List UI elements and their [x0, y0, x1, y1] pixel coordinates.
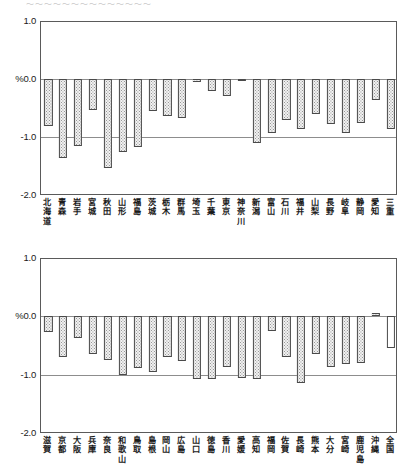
xtick-label-茨城: 茨城 [144, 198, 159, 217]
bar-愛知[interactable] [372, 79, 380, 100]
xtick-label-長野: 長野 [323, 198, 338, 217]
xtick-label-岡山: 岡山 [159, 436, 174, 455]
xtick-label-高知: 高知 [248, 436, 263, 455]
bar-宮崎[interactable] [342, 316, 350, 364]
xtick-label-佐賀: 佐賀 [278, 436, 293, 455]
bar-埼玉[interactable] [193, 79, 201, 82]
bar-三重[interactable] [386, 79, 394, 129]
bar-slot [353, 259, 368, 432]
bar-静岡[interactable] [357, 79, 365, 123]
bar-slot [339, 22, 354, 194]
xtick-label-岩手: 岩手 [70, 198, 85, 217]
bar-slot [86, 22, 101, 194]
bar-長崎[interactable] [297, 316, 305, 383]
bar-山口[interactable] [193, 316, 201, 379]
bar-愛媛[interactable] [238, 316, 246, 378]
bar-千葉[interactable] [208, 79, 216, 91]
bar-岡山[interactable] [163, 316, 171, 357]
bar-高知[interactable] [253, 316, 261, 379]
xtick-label-福岡: 福岡 [263, 436, 278, 455]
bar-岐阜[interactable] [342, 79, 350, 133]
bar-slot [294, 22, 309, 194]
bar-秋田[interactable] [104, 79, 112, 168]
bar-栃木[interactable] [163, 79, 171, 116]
bar-slot [294, 259, 309, 432]
bar-福島[interactable] [134, 79, 142, 147]
bar-slot [234, 22, 249, 194]
xtick-label-静岡: 静岡 [352, 198, 367, 217]
bar-京都[interactable] [59, 316, 67, 357]
xtick-label-新潟: 新潟 [248, 198, 263, 217]
bar-奈良[interactable] [104, 316, 112, 360]
bar-山梨[interactable] [312, 79, 320, 114]
bar-slot [190, 259, 205, 432]
bar-slot [115, 259, 130, 432]
bar-slot [324, 22, 339, 194]
bar-山形[interactable] [119, 79, 127, 152]
xtick-label-奈良: 奈良 [100, 436, 115, 455]
bar-大阪[interactable] [74, 316, 82, 338]
xtick-label-千葉: 千葉 [204, 198, 219, 217]
bar-広島[interactable] [178, 316, 186, 361]
bar-slot [101, 259, 116, 432]
xtick-label-徳島: 徳島 [204, 436, 219, 455]
chart-bottom-ytick-label: 1.0 [0, 253, 36, 263]
bar-slot [264, 259, 279, 432]
bar-slot [41, 22, 56, 194]
bar-slot [339, 259, 354, 432]
bar-slot [309, 259, 324, 432]
xtick-label-大阪: 大阪 [70, 436, 85, 455]
bar-和歌山[interactable] [119, 316, 127, 374]
chart-bottom-ytick-label: %0.0 [0, 311, 36, 321]
chart-top-bars [41, 22, 396, 194]
bar-福岡[interactable] [267, 316, 275, 331]
chart-top-ytick-label: -1.0 [0, 132, 36, 142]
figure-sheet: 〜〜〜〜〜〜〜〜〜〜〜〜〜〜 1.0%0.0-1.0-2.0北海道青森岩手宮城秋… [0, 0, 405, 472]
bar-北海道[interactable] [44, 79, 52, 126]
chart-bottom-ytick-label: -1.0 [0, 370, 36, 380]
bar-福井[interactable] [297, 79, 305, 129]
bar-徳島[interactable] [208, 316, 216, 378]
bar-長野[interactable] [327, 79, 335, 124]
bar-兵庫[interactable] [89, 316, 97, 353]
bar-宮城[interactable] [89, 79, 97, 110]
bar-富山[interactable] [267, 79, 275, 133]
xtick-label-長崎: 長崎 [293, 436, 308, 455]
xtick-label-鳥取: 鳥取 [129, 436, 144, 455]
xtick-label-三重: 三重 [382, 198, 397, 217]
bar-slot [190, 22, 205, 194]
bar-全国[interactable] [386, 316, 394, 348]
bar-鳥取[interactable] [134, 316, 142, 367]
bar-熊本[interactable] [312, 316, 320, 353]
bar-島根[interactable] [148, 316, 156, 371]
bar-群馬[interactable] [178, 79, 186, 118]
bar-slot [368, 22, 383, 194]
bar-茨城[interactable] [148, 79, 156, 111]
bar-青森[interactable] [59, 79, 67, 158]
xtick-label-神奈川: 神奈川 [233, 198, 248, 226]
bar-沖縄[interactable] [372, 313, 380, 316]
bar-新潟[interactable] [253, 79, 261, 143]
chart-top-ytick-label: %0.0 [0, 74, 36, 84]
bar-東京[interactable] [223, 79, 231, 96]
xtick-label-山口: 山口 [189, 436, 204, 455]
bar-滋賀[interactable] [44, 316, 52, 332]
bar-香川[interactable] [223, 316, 231, 367]
bar-slot [353, 22, 368, 194]
xtick-label-福島: 福島 [129, 198, 144, 217]
bar-鹿児島[interactable] [357, 316, 365, 363]
bar-石川[interactable] [282, 79, 290, 120]
bar-神奈川[interactable] [238, 79, 246, 81]
xtick-label-鹿児島: 鹿児島 [352, 436, 367, 464]
bar-大分[interactable] [327, 316, 335, 367]
bar-slot [145, 259, 160, 432]
xtick-label-宮城: 宮城 [85, 198, 100, 217]
bar-slot [115, 22, 130, 194]
bar-slot [130, 259, 145, 432]
bar-slot [220, 22, 235, 194]
xtick-label-広島: 広島 [174, 436, 189, 455]
bar-岩手[interactable] [74, 79, 82, 146]
xtick-label-山形: 山形 [114, 198, 129, 217]
bar-佐賀[interactable] [282, 316, 290, 357]
xtick-label-福井: 福井 [293, 198, 308, 217]
